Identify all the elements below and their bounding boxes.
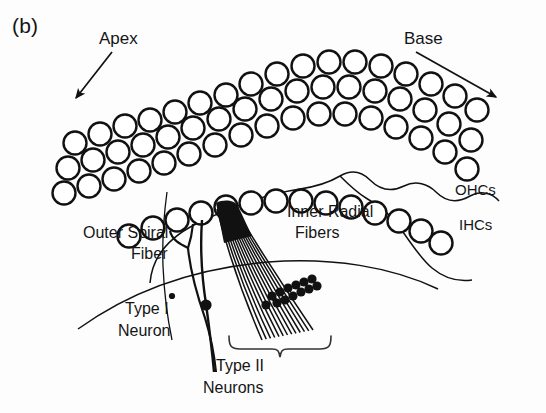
outer-hair-cell <box>78 175 101 198</box>
outer-hair-cell <box>103 168 126 191</box>
outer-hair-cell <box>128 160 151 183</box>
synapse-dot <box>312 281 321 290</box>
outer-hair-cell <box>240 73 263 96</box>
outer-hair-cell <box>53 182 76 205</box>
type-ii-bracket <box>229 336 331 357</box>
outer-hair-cell <box>338 76 361 99</box>
label-type-ii-neurons-line2: Neurons <box>203 379 263 397</box>
cochlea-hair-cell-diagram: (b) Apex Base OHCs IHCs Inner Radial Fib… <box>0 0 546 413</box>
inner-hair-cell <box>166 209 189 232</box>
outer-hair-cell <box>389 88 412 111</box>
label-outer-spiral-fiber-line2: Fiber <box>131 245 167 263</box>
outer-hair-cell <box>182 117 205 140</box>
outer-hair-cell <box>230 124 253 147</box>
outer-hair-cell <box>234 98 257 121</box>
outer-hair-cell <box>286 80 309 103</box>
outer-hair-cell <box>153 152 176 175</box>
outer-hair-cell <box>89 123 112 146</box>
outer-hair-cell <box>460 129 483 152</box>
outer-hair-cell <box>266 63 289 86</box>
outer-hair-cell <box>414 99 437 122</box>
outer-hair-cell <box>360 107 383 130</box>
outer-hair-cell <box>189 92 212 115</box>
outer-hair-cell <box>139 109 162 132</box>
inner-hair-cell <box>240 192 263 215</box>
synapse-dot <box>275 287 284 296</box>
type-i-soma-dot <box>200 299 211 310</box>
outer-hair-cell <box>107 141 130 164</box>
outer-hair-cell <box>132 134 155 157</box>
outer-hair-cell <box>164 101 187 124</box>
outer-hair-cell <box>157 126 180 149</box>
outer-hair-cell <box>318 51 341 74</box>
outer-hair-cell <box>208 108 231 131</box>
outer-hair-cell <box>420 73 443 96</box>
outer-hair-cell <box>260 88 283 111</box>
synapse-dot <box>288 291 297 300</box>
label-type-i-neuron-line2: Neuron <box>118 322 170 340</box>
type-i-principal-fiber <box>201 220 214 372</box>
label-inner-radial-fibers-line1: Inner Radial <box>287 203 373 221</box>
outer-hair-cell <box>282 107 305 130</box>
label-apex: Apex <box>99 29 138 49</box>
synapse-dot <box>296 287 305 296</box>
outer-hair-cell <box>395 63 418 86</box>
outer-hair-cell <box>466 99 489 122</box>
label-base: Base <box>404 29 443 49</box>
outer-hair-cell <box>308 103 331 126</box>
label-ohcs: OHCs <box>455 181 496 198</box>
label-inner-radial-fibers-line2: Fibers <box>295 224 339 242</box>
outer-hair-cell <box>444 85 467 108</box>
outer-hair-cell <box>312 76 335 99</box>
type-i-small-soma-dot <box>169 293 175 299</box>
outer-hair-cell <box>256 115 279 138</box>
outer-hair-cell <box>370 55 393 78</box>
outer-spiral-fiber-path <box>170 224 216 372</box>
outer-hair-cell <box>178 143 201 166</box>
label-type-ii-neurons-line1: Type II <box>216 357 264 375</box>
diagram-canvas <box>0 0 546 413</box>
outer-hair-cell <box>114 115 137 138</box>
outer-hair-cell <box>410 127 433 150</box>
outer-hair-cell <box>334 103 357 126</box>
synapse-dot <box>272 298 281 307</box>
synapse-dot <box>261 300 270 309</box>
synapse-dot <box>283 283 292 292</box>
outer-hair-cell <box>344 51 367 74</box>
outer-hair-cell <box>57 157 80 180</box>
label-outer-spiral-fiber-line1: Outer Spiral <box>83 224 168 242</box>
inner-hair-cell <box>430 232 453 255</box>
outer-hair-cell <box>82 149 105 172</box>
inner-hair-cell <box>388 210 411 233</box>
synapse-dot <box>304 284 313 293</box>
outer-hair-cell <box>204 134 227 157</box>
outer-hair-cell <box>385 116 408 139</box>
label-ihcs: IHCs <box>459 216 492 233</box>
outer-hair-cell <box>364 80 387 103</box>
inner-hair-cell <box>265 190 288 213</box>
outer-hair-cell <box>292 55 315 78</box>
outer-hair-cell <box>64 132 87 155</box>
outer-hair-cell-field <box>53 51 489 205</box>
outer-hair-cell <box>434 141 457 164</box>
synapse-dot <box>280 295 289 304</box>
panel-letter: (b) <box>12 14 38 38</box>
apex-arrow <box>76 52 112 98</box>
label-type-i-neuron-line1: Type I <box>125 300 169 318</box>
outer-hair-cell <box>456 158 479 181</box>
outer-hair-cell <box>438 113 461 136</box>
